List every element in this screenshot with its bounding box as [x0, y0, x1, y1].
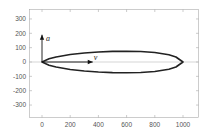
y-tick-label: -300: [13, 101, 26, 108]
x-tick-label: 200: [65, 121, 76, 128]
x-tick-label: 1000: [176, 121, 191, 128]
y-tick-label: 200: [15, 30, 26, 37]
y-tick-label: 300: [15, 15, 26, 22]
x-axis-labels: 02004006008001000: [40, 121, 190, 128]
x-tick-label: 600: [121, 121, 132, 128]
y-tick-label: -100: [13, 73, 26, 80]
y-tick-label: 0: [22, 58, 26, 65]
y-tick-label: -200: [13, 87, 26, 94]
x-tick-label: 0: [40, 121, 44, 128]
y-tick-label: 100: [15, 44, 26, 51]
x-tick-label: 400: [93, 121, 104, 128]
vector-label-v: v: [94, 53, 98, 62]
plot-frame: [30, 10, 199, 118]
x-tick-label: 800: [149, 121, 160, 128]
chart: -300-200-1000100200300 02004006008001000…: [0, 0, 207, 134]
vector-label-a: a: [46, 34, 50, 43]
y-axis-labels: -300-200-1000100200300: [13, 15, 26, 108]
